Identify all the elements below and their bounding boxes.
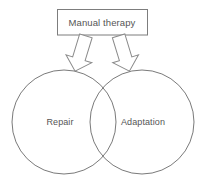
arrow-to-adaptation-shape: [106, 32, 143, 75]
circle-label-adaptation: Adaptation: [121, 117, 165, 128]
arrow-to-repair-shape: [62, 32, 99, 75]
diagram-graphics: [0, 0, 205, 187]
arrow-to-repair: [62, 32, 99, 75]
arrow-to-adaptation: [106, 32, 143, 75]
diagram-canvas: Manual therapy Repair Adaptation: [0, 0, 205, 187]
circle-label-repair: Repair: [46, 117, 73, 128]
manual-therapy-box-label: Manual therapy: [69, 17, 136, 28]
